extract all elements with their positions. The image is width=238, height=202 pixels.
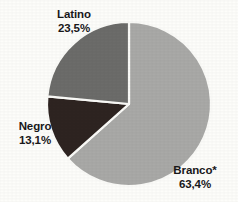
pie-label-negro: Negro 13,1%	[2, 120, 68, 147]
pie-label-branco-value: 63,4%	[156, 178, 234, 192]
pie-label-latino-value: 23,5%	[38, 22, 110, 36]
pie-label-latino: Latino 23,5%	[38, 8, 110, 35]
pie-label-negro-value: 13,1%	[2, 134, 68, 148]
pie-label-branco-name: Branco*	[156, 164, 234, 178]
pie-chart-figure: Latino 23,5% Negro 13,1% Branco* 63,4%	[0, 0, 238, 202]
pie-label-negro-name: Negro	[2, 120, 68, 134]
pie-slices-group	[47, 22, 211, 186]
pie-label-branco: Branco* 63,4%	[156, 164, 234, 191]
pie-label-latino-name: Latino	[38, 8, 110, 22]
